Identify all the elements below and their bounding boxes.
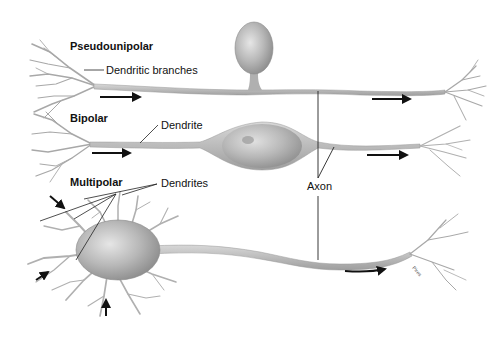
dendrite-leader-line — [140, 125, 158, 143]
pseudounipolar-stalk — [248, 72, 262, 90]
pseudounipolar-cell-body — [235, 22, 273, 74]
dendrite-label: Dendrite — [161, 120, 203, 131]
multipolar-input-arrow-top — [50, 196, 64, 208]
bipolar-axon-terminal — [420, 126, 470, 176]
multipolar-axon-terminal — [410, 214, 468, 290]
axon-label: Axon — [307, 181, 332, 192]
pseudounipolar-fiber — [94, 84, 445, 96]
multipolar-title: Multipolar — [70, 177, 123, 188]
pseudounipolar-axon-terminal — [445, 60, 486, 120]
dendrites-label: Dendrites — [161, 178, 208, 189]
pseudounipolar-title: Pseudounipolar — [70, 41, 153, 52]
multipolar-input-arrow-left — [36, 272, 48, 280]
bipolar-title: Bipolar — [70, 113, 108, 124]
multipolar-cell-body — [76, 220, 160, 280]
multipolar-axon — [150, 245, 412, 270]
dendritic-branches-label: Dendritic branches — [106, 65, 198, 76]
pseudounipolar-neuron — [30, 22, 486, 120]
artist-signature: Pires — [411, 265, 423, 278]
axon-leader-lines — [318, 91, 334, 260]
bipolar-nucleus — [242, 136, 254, 144]
neuron-types-diagram: Pires Pseudounipolar Dendritic branches … — [0, 0, 497, 340]
multipolar-neuron — [28, 184, 468, 316]
bipolar-cell-body — [222, 124, 302, 168]
